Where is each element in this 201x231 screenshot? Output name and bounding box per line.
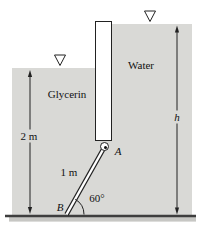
right-dimension-down-arrow-icon bbox=[175, 208, 179, 215]
left-dimension-up-arrow-icon bbox=[28, 70, 32, 77]
left-depth-dimension-label: 2 m bbox=[19, 130, 40, 143]
hinge-pin-center bbox=[104, 146, 107, 149]
angle-arc bbox=[75, 199, 84, 214]
point-a-label: A bbox=[115, 146, 122, 157]
gate bbox=[95, 21, 112, 141]
water-label: Water bbox=[128, 60, 154, 71]
fluid-statics-figure: Water Glycerin 2 m h 1 m 60° A B bbox=[0, 0, 201, 231]
right-depth-dimension-label: h bbox=[172, 111, 182, 124]
point-b-label: B bbox=[57, 202, 64, 213]
angle-label: 60° bbox=[89, 193, 104, 204]
glycerin-label: Glycerin bbox=[48, 89, 86, 100]
strut-bar bbox=[67, 147, 105, 215]
water-free-surface-icon bbox=[145, 11, 156, 22]
ground-shadow bbox=[9, 217, 196, 222]
hinge-pin-icon bbox=[100, 142, 109, 151]
strut-length-label: 1 m bbox=[61, 167, 78, 178]
glycerin-free-surface-icon bbox=[55, 55, 66, 66]
left-dimension-down-arrow-icon bbox=[28, 207, 32, 214]
right-dimension-up-arrow-icon bbox=[175, 26, 179, 33]
